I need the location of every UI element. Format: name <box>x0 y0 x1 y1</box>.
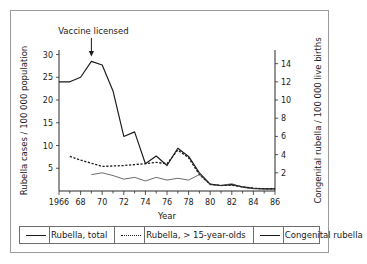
x-ticklabel: 80 <box>205 198 215 207</box>
y2-ticklabel: 14 <box>281 60 291 69</box>
y-ticklabel: 25 <box>43 73 53 82</box>
y-ticklabel: 20 <box>43 96 53 105</box>
y-ticklabel: 10 <box>43 142 53 151</box>
rubella-incidence-chart: 5101520253024681012141966687072747678808… <box>11 11 328 252</box>
figure-frame: 5101520253024681012141966687072747678808… <box>10 10 329 253</box>
legend-item-rubella-over15: Rubella, > 15-year-olds <box>115 227 253 243</box>
y-ticklabel: 5 <box>48 164 53 173</box>
legend-item-congenital-rubella: Congenital rubella <box>254 227 367 243</box>
x-ticklabel: 70 <box>97 198 107 207</box>
legend-label-rubella-total: Rubella, total <box>49 227 111 243</box>
y2-ticklabel: 4 <box>281 151 286 160</box>
thin-solid-line-icon <box>260 230 280 240</box>
x-ticklabel: 74 <box>140 198 150 207</box>
x-ticklabel: 1966 <box>49 198 69 207</box>
series-line-congenital-rubella <box>91 173 275 189</box>
x-ticklabel: 72 <box>119 198 129 207</box>
solid-line-icon <box>26 230 46 240</box>
x-ticklabel: 68 <box>76 198 86 207</box>
dotted-line-icon <box>121 230 141 240</box>
down-arrow-head-icon <box>89 51 94 57</box>
y2-ticklabel: 2 <box>281 169 286 178</box>
x-axis-label: Year <box>157 211 177 221</box>
legend-label-rubella-over15: Rubella, > 15-year-olds <box>144 227 249 243</box>
annotation-label: Vaccine licensed <box>58 26 128 36</box>
y2-axis-label: Congenital rubella / 100 000 live births <box>313 37 323 204</box>
x-ticklabel: 82 <box>227 198 237 207</box>
y-axis-label: Rubella cases / 100 000 population <box>19 46 29 196</box>
y-ticklabel: 30 <box>43 51 53 60</box>
series-line-rubella-total <box>59 61 275 188</box>
y2-ticklabel: 6 <box>281 132 286 141</box>
x-ticklabel: 78 <box>184 198 194 207</box>
legend-label-congenital-rubella: Congenital rubella <box>283 227 367 243</box>
y2-ticklabel: 12 <box>281 78 291 87</box>
x-ticklabel: 86 <box>270 198 280 207</box>
y2-ticklabel: 10 <box>281 96 291 105</box>
legend-item-rubella-total: Rubella, total <box>20 227 115 243</box>
axis-spines <box>59 50 275 191</box>
y-ticklabel: 15 <box>43 119 53 128</box>
x-ticklabel: 76 <box>162 198 172 207</box>
chart-legend: Rubella, total Rubella, > 15-year-olds C… <box>19 226 320 244</box>
x-ticklabel: 84 <box>248 198 258 207</box>
y2-ticklabel: 8 <box>281 114 286 123</box>
series-line-rubella-over15 <box>70 150 275 189</box>
